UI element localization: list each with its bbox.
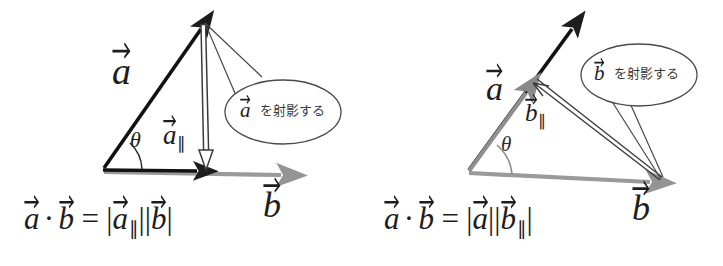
right-vector-a-label: a [486, 72, 503, 106]
left-formula-bar-4: | [166, 201, 172, 236]
right-vector-b-line [469, 173, 650, 182]
left-callout-text: を射影する [260, 103, 325, 118]
right-theta-glyph: θ [501, 132, 511, 156]
left-formula-b: b [58, 201, 74, 236]
left-callout-content: a を射影する [240, 100, 325, 121]
left-vector-a-parallel-glyph: a [163, 120, 177, 150]
left-vector-b-label: b [263, 187, 281, 223]
right-formula-a: a [384, 201, 400, 236]
left-vector-b-glyph: b [263, 185, 281, 225]
right-callout-text: を射影する [614, 66, 679, 81]
right-formula: a·b=|a||b∥| [384, 203, 533, 238]
right-formula-rhs-b-sub: ∥ [517, 218, 527, 239]
right-vector-a-glyph: a [486, 70, 503, 107]
right-formula-rhs-b: b [501, 201, 517, 236]
left-formula-rhs-a-sub: ∥ [129, 218, 139, 239]
left-formula-a: a [24, 201, 40, 236]
right-callout-vector-glyph: b [594, 61, 605, 85]
right-vector-b-parallel-label: b ∥ [525, 100, 546, 128]
left-formula-rhs-a: a [113, 201, 129, 236]
right-formula-dot: · [404, 201, 414, 236]
right-vector-b-parallel-glyph: b [525, 99, 538, 126]
left-projection-drop-arrow [199, 25, 213, 171]
right-formula-bar-4: | [526, 201, 532, 236]
right-formula-rhs-a: a [473, 201, 489, 236]
left-formula-rhs-b: b [151, 201, 167, 236]
right-vector-b-label: b [632, 190, 650, 226]
left-angle-label: θ [130, 129, 141, 151]
right-vector-b-glyph: b [632, 188, 650, 228]
left-vector-a-parallel-label: a ∥ [163, 122, 186, 153]
left-panel-group [103, 23, 341, 175]
left-theta-glyph: θ [130, 127, 141, 152]
left-vector-a-glyph: a [112, 50, 131, 92]
left-vector-a-label: a [112, 52, 131, 90]
left-formula: a·b=|a∥||b| [24, 203, 173, 238]
right-formula-equals: = [441, 201, 458, 236]
right-callout-content: b を射影する [594, 63, 679, 84]
left-parallel-subscript: ∥ [177, 134, 186, 153]
left-formula-equals: = [81, 201, 98, 236]
right-panel-group [469, 29, 697, 182]
right-parallel-subscript: ∥ [538, 112, 546, 129]
right-angle-label: θ [501, 134, 511, 155]
left-formula-dot: · [44, 201, 54, 236]
figure-canvas: a θ a ∥ b [0, 0, 723, 266]
left-callout-vector-glyph: a [240, 98, 251, 122]
right-formula-b: b [418, 201, 434, 236]
left-vector-a-parallel-line [103, 170, 197, 171]
